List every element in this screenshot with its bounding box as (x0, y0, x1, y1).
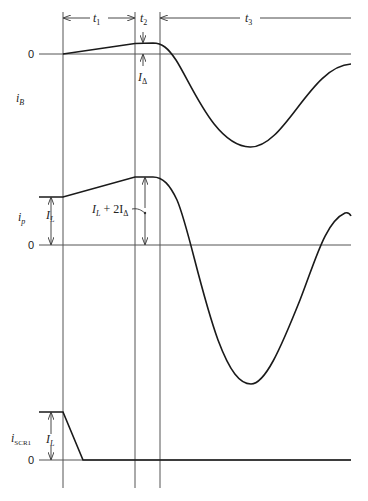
IL-plus-2delta-label: IL + 2IΔ (91, 202, 128, 218)
ip-zero-label: 0 (28, 239, 34, 251)
iB-waveform (63, 43, 351, 147)
waveform-diagram: t1 t2 t3 0 iB IΔ 0 ip IL IL + 2IΔ 0 iSCR… (0, 0, 368, 501)
IL2D-leader (132, 209, 145, 213)
IL2D-dot (144, 212, 146, 214)
t3-label: t3 (245, 11, 252, 27)
interval-dimensions: t1 t2 t3 (64, 11, 351, 27)
iSCR1-zero-label: 0 (28, 454, 34, 466)
t2-label: t2 (140, 11, 147, 27)
trace-iB: 0 iB IΔ (16, 32, 351, 147)
trace-iSCR1: 0 iSCR1 IL (11, 412, 351, 466)
ip-waveform (39, 177, 351, 384)
ip-label: ip (18, 210, 25, 226)
t1-label: t1 (93, 11, 100, 27)
iSCR1-IL-label: IL (45, 432, 55, 448)
iSCR1-waveform (39, 412, 351, 460)
iB-label: iB (16, 91, 24, 107)
I-delta-label: IΔ (137, 70, 147, 86)
iSCR1-label: iSCR1 (11, 431, 32, 447)
trace-ip: 0 ip IL IL + 2IΔ (18, 177, 351, 384)
iB-zero-label: 0 (28, 48, 34, 60)
IL-label: IL (45, 208, 55, 224)
